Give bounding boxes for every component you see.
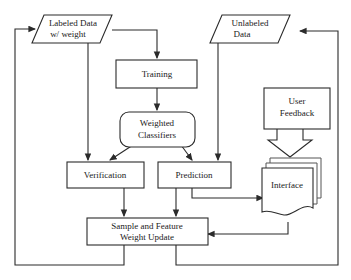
flowchart-diagram: Labeled Data w/ weight Unlabeled Data Tr…: [0, 0, 351, 280]
node-unlabeled-data-line2: Data: [234, 29, 251, 39]
node-user-feedback-line1: User: [289, 96, 306, 106]
node-prediction-label: Prediction: [176, 170, 213, 180]
node-labeled-data-line2: w/ weight: [50, 29, 86, 39]
node-unlabeled-data: Unlabeled Data: [210, 15, 290, 43]
node-verification-label: Verification: [84, 170, 127, 180]
node-sample-feature-weight-update: Sample and Feature Weight Update: [87, 218, 208, 245]
node-unlabeled-data-line1: Unlabeled: [232, 18, 269, 28]
node-weight-update-line2: Weight Update: [120, 232, 174, 242]
node-labeled-data-line1: Labeled Data: [49, 18, 97, 28]
node-training: Training: [116, 60, 197, 88]
edge-prediction-to-interface: [192, 188, 263, 198]
node-prediction: Prediction: [158, 162, 231, 188]
node-weighted-classifiers-line1: Weighted: [140, 118, 175, 128]
block-arrow-user-feedback-to-interface: [268, 128, 312, 157]
node-verification: Verification: [67, 162, 144, 188]
node-weight-update-line1: Sample and Feature: [111, 221, 182, 231]
node-interface-label: Interface: [271, 180, 303, 190]
edge-interface-to-weight-update: [208, 222, 288, 234]
node-interface: Interface: [262, 158, 321, 215]
edge-labeled-data-to-training: [112, 30, 157, 58]
flowchart-canvas: Labeled Data w/ weight Unlabeled Data Tr…: [0, 0, 351, 280]
node-user-feedback: User Feedback: [264, 88, 330, 129]
node-weighted-classifiers-line2: Classifiers: [138, 130, 176, 140]
node-labeled-data: Labeled Data w/ weight: [32, 15, 112, 43]
node-user-feedback-line2: Feedback: [280, 108, 315, 118]
node-weighted-classifiers: Weighted Classifiers: [120, 112, 195, 147]
node-training-label: Training: [142, 69, 173, 79]
